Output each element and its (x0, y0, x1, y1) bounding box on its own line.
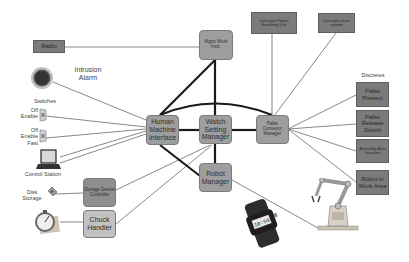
chuck-clock-icon (33, 207, 63, 237)
mgmt-work-instr-node[interactable]: Mgmt Work Instr. (199, 30, 233, 60)
wristwatch-icon: 10:59 (243, 198, 283, 248)
hmi-node[interactable]: Human Machine Interface (146, 115, 179, 145)
control-station-label: Control Station (18, 171, 68, 177)
conveyor-power-switching-node[interactable]: Conveyor Power Switching Unit (251, 12, 297, 34)
alarm-bell-icon (30, 66, 54, 90)
radio-node[interactable]: Radio (33, 40, 65, 53)
chuck-handler-node[interactable]: Chuck Handler (83, 210, 116, 238)
assembly-area-intrusion-node[interactable]: Assembly Area Intrusion (356, 139, 389, 163)
switch-off-enable-label: Off Enable (14, 107, 38, 120)
robot-manager-node[interactable]: Robot Manager (199, 163, 232, 192)
computer-icon[interactable] (36, 149, 62, 171)
intrusion-alarm-label: Intrusion Alarm (68, 66, 108, 82)
switch-off-enable-fast-label: Off Enable Fast (14, 127, 38, 146)
discretes-label: Discretes (352, 72, 394, 78)
switches-label: Switches (28, 98, 62, 104)
pallet-conveyor-manager-node[interactable]: Pallet Conveyor Manager (256, 115, 289, 144)
switch-icon[interactable] (39, 129, 47, 143)
pallet-release-switch-node[interactable]: Pallet Release Switch (356, 110, 389, 137)
disk-storage-label: Disk Storage (18, 189, 46, 202)
robot-arm-icon (300, 178, 372, 234)
storage-device-controller-node[interactable]: Storage Device Controller (83, 178, 116, 207)
switch-icon[interactable] (39, 108, 47, 122)
pallet-present-node[interactable]: Pallet Present (356, 82, 389, 107)
watch-setting-manager-node[interactable]: Watch Setting Manager (199, 115, 232, 144)
disk-icon[interactable] (46, 186, 58, 198)
conveyor-drive-system-node[interactable]: Conveyor drive system (318, 13, 355, 33)
